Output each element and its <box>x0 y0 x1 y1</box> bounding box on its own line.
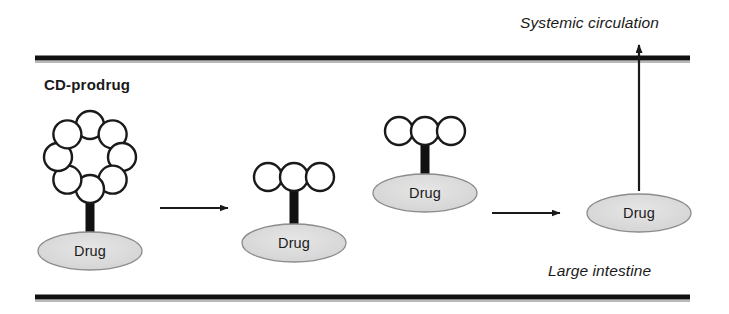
drug-label-partially-degraded-prodrug: Drug <box>278 235 310 251</box>
diagram-canvas: Systemic circulationCD-prodrugLarge inte… <box>0 0 729 314</box>
label-systemic-circulation: Systemic circulation <box>520 14 659 32</box>
label-large-intestine: Large intestine <box>548 262 651 280</box>
cd-unit-circle <box>280 163 308 191</box>
cd-unit-circle <box>53 120 81 148</box>
label-cd-prodrug: CD-prodrug <box>44 76 130 93</box>
drug-label-free-drug: Drug <box>623 205 655 221</box>
cd-unit-circle <box>411 117 439 145</box>
drug-label-partially-degraded-prodrug-absorbing: Drug <box>409 185 441 201</box>
cd-unit-circle <box>306 163 334 191</box>
cd-unit-circle <box>385 117 413 145</box>
molecule-structures <box>38 111 691 270</box>
drug-label-cd-prodrug: Drug <box>74 243 106 259</box>
cd-unit-circle <box>254 163 282 191</box>
cd-unit-circle <box>437 117 465 145</box>
